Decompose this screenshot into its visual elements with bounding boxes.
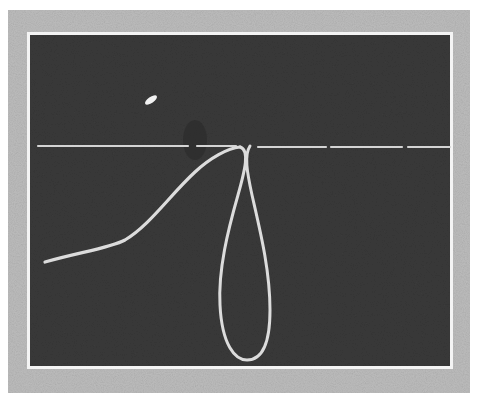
oscilloscope-photo — [0, 0, 479, 398]
screen-shadow — [183, 120, 207, 160]
scope-screen — [30, 35, 450, 366]
